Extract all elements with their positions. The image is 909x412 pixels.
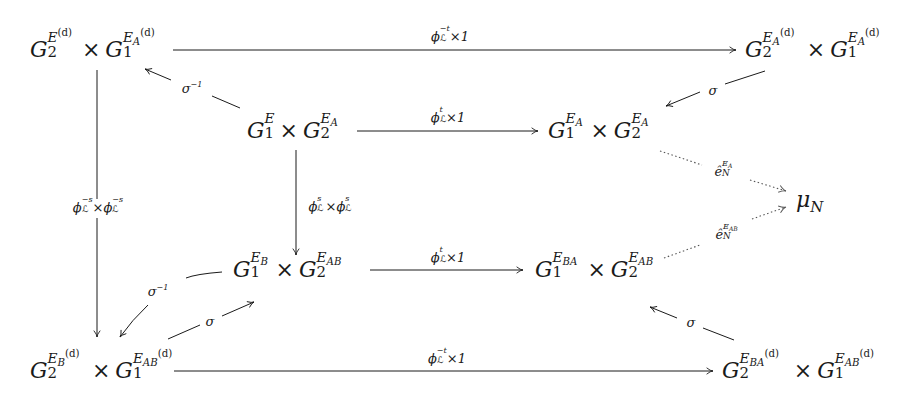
node-bottom-right: GEBA(d)2EBA(d)×GEAB(d)1EAB(d) xyxy=(722,360,884,382)
label-sigma-inv-bot: σ−1 xyxy=(148,285,169,298)
label-arrow-mid-bot: ϕtℒtt×1 xyxy=(431,251,466,264)
arrow-sigma-bot-right xyxy=(650,307,677,318)
label-sigma-bot-right: σ xyxy=(687,316,696,329)
node-top-right: GEA(d)2EA(d)×GEA(d)1EA(d) xyxy=(745,39,887,61)
arrow-e-bot xyxy=(664,245,700,258)
node-bottom-left: GEB(d)2EB(d)×GEAB(d)1EAB(d) xyxy=(30,360,182,382)
node-mu-n: μN xyxy=(796,189,823,211)
label-arrow-mid-top: ϕtℒtt×1 xyxy=(431,111,466,124)
label-e-top: êEANEAA xyxy=(714,165,739,178)
label-arrow-top: ϕ−tℒ−t×1 xyxy=(431,30,469,43)
node-middle-right: GEA1EA×GEA2EA xyxy=(548,120,651,142)
arrow-sigma-inv-bot xyxy=(120,305,148,337)
arrow-sigma-inv-top xyxy=(145,69,171,80)
label-sigma-bot-left: σ xyxy=(206,315,215,328)
label-e-bot: êEABNEABB xyxy=(715,228,746,241)
arrow-sigma-bot-left xyxy=(222,302,254,316)
label-sigma-top-right: σ xyxy=(709,84,718,97)
node-lower-left: GEB1EB×GEAB2EAB xyxy=(233,259,346,281)
label-arrow-bottom: ϕ−tℒ−t×1 xyxy=(428,352,466,365)
label-arrow-center-vert: ϕsℒss×ϕsℒss xyxy=(308,200,353,213)
node-middle-left: GE1E×GEA2EA xyxy=(247,120,340,142)
node-top-left: GE(d)2E(d)×GEA(d)1EA(d) xyxy=(30,39,162,61)
arrow-e-top xyxy=(660,151,702,165)
label-sigma-inv-top: σ−1 xyxy=(182,82,203,95)
commutative-diagram: GE(d)2E(d)×GEA(d)1EA(d) GEA(d)2EA(d)×GEA… xyxy=(0,0,909,412)
label-arrow-left-vert: ϕ−sℒ−s×ϕ−sℒ−s xyxy=(73,201,123,214)
arrow-sigma-top-right xyxy=(666,92,700,106)
node-lower-right: GEBA1EBA×GEAB2EAB xyxy=(535,259,658,281)
